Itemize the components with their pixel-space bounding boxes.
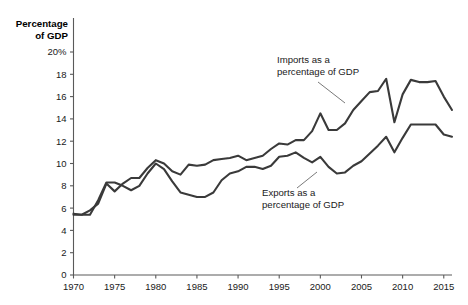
y-tick-label: 20% [47,46,67,57]
x-tick-label: 2005 [351,281,372,292]
y-tick-label: 16 [56,91,67,102]
exports-leader-line [297,172,317,188]
y-axis-title-line1: Percentage [16,18,69,29]
x-tick-label: 1975 [104,281,125,292]
chart-container: Percentage of GDP 02468101214161820% 197… [0,0,468,305]
exports-annotation-line1: Exports as a [262,187,316,198]
exports-annotation: Exports as a percentage of GDP [262,172,344,210]
x-tick-label: 2015 [433,281,454,292]
y-tick-label: 6 [61,203,66,214]
x-tick-label: 1980 [145,281,166,292]
line-chart: Percentage of GDP 02468101214161820% 197… [0,0,468,305]
imports-annotation-line1: Imports as a [277,54,330,65]
y-axis-title: Percentage of GDP [16,18,69,41]
y-tick-label: 18 [56,69,67,80]
x-axis-ticks: 1970197519801985199019952000200520102015 [63,275,454,292]
x-tick-label: 1990 [227,281,248,292]
x-tick-label: 1985 [186,281,207,292]
exports-annotation-line2: percentage of GDP [262,199,344,210]
y-tick-label: 14 [56,113,67,124]
y-tick-label: 0 [61,269,66,280]
imports-leader-line [318,82,345,103]
imports-annotation: Imports as a percentage of GDP [277,54,359,103]
y-tick-label: 4 [61,225,66,236]
y-axis-ticks: 02468101214161820% [47,46,73,280]
x-tick-label: 1995 [269,281,290,292]
y-tick-label: 10 [56,158,67,169]
x-tick-label: 2000 [310,281,331,292]
y-tick-label: 8 [61,180,66,191]
imports-annotation-line2: percentage of GDP [277,66,359,77]
x-tick-label: 1970 [63,281,84,292]
x-tick-label: 2010 [392,281,413,292]
y-tick-label: 12 [56,136,67,147]
y-tick-label: 2 [61,247,66,258]
y-axis-title-line2: of GDP [35,30,68,41]
